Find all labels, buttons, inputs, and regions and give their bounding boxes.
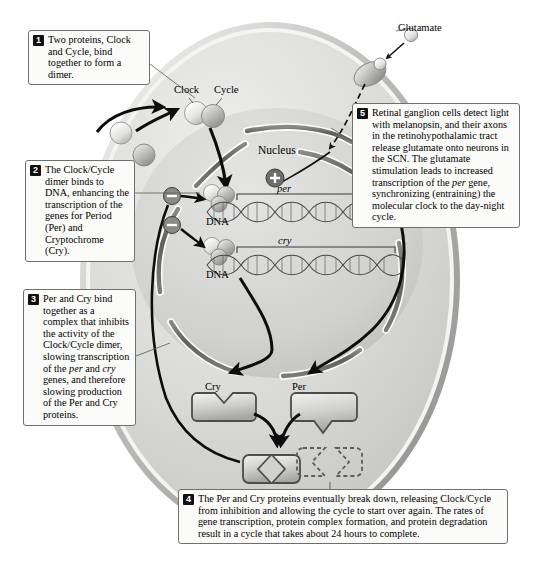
label-nucleus: Nucleus: [258, 145, 296, 156]
inhibit-symbol-upper: [164, 188, 181, 205]
label-cry-gene: cry: [278, 235, 291, 246]
callout-1-text: Two proteins, Clock and Cycle, bind toge…: [48, 34, 145, 80]
callout-1: 1 Two proteins, Clock and Cycle, bind to…: [28, 30, 150, 85]
callout-1-number: 1: [33, 35, 44, 46]
callout-5-text: Retinal ganglion cells detect light with…: [372, 107, 515, 223]
callout-2: 2 The Clock/Cycle dimer binds to DNA, en…: [25, 160, 135, 262]
figure-canvas: Clock Cycle Nucleus per cry DNA DNA Cry …: [0, 0, 533, 581]
callout-3-text: Per and Cry bind together as a complex t…: [43, 293, 131, 421]
label-clock: Clock: [174, 84, 199, 95]
callout-3: 3 Per and Cry bind together as a complex…: [23, 289, 136, 426]
callout-3-number: 3: [28, 294, 39, 305]
callout-2-number: 2: [30, 165, 41, 176]
label-cry-protein: Cry: [205, 381, 221, 392]
callout-4-number: 4: [183, 494, 194, 505]
glutamate-molecules: [374, 29, 418, 71]
label-dna-lower: DNA: [206, 269, 229, 280]
callout-4: 4 The Per and Cry proteins eventually br…: [178, 489, 508, 544]
label-cycle: Cycle: [214, 84, 239, 95]
callout-5-number: 5: [357, 108, 368, 119]
label-per-protein: Per: [292, 381, 306, 392]
callout-4-text: The Per and Cry proteins eventually brea…: [198, 493, 503, 539]
clock-cycle-dimer: [185, 102, 225, 128]
callout-2-text: The Clock/Cycle dimer binds to DNA, enha…: [45, 164, 130, 257]
clock-monomer: [110, 122, 132, 144]
callout-5: 5 Retinal ganglion cells detect light wi…: [352, 103, 520, 228]
inhibit-symbol-lower: [164, 217, 181, 234]
label-glutamate: Glutamate: [398, 22, 442, 33]
label-per-gene: per: [277, 183, 291, 194]
cycle-monomer: [133, 144, 155, 166]
label-dna-upper: DNA: [206, 216, 229, 227]
